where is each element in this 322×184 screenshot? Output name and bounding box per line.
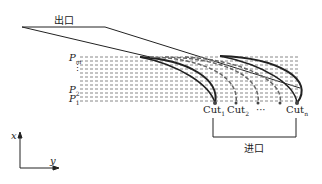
- cutn-curves: [185, 56, 302, 103]
- vdots-label: ⋮: [73, 64, 82, 72]
- inlet-bracket: [213, 118, 296, 137]
- axis-x-label: x: [11, 130, 17, 141]
- axis-y-label: y: [50, 155, 56, 166]
- ellipsis-label: ···: [256, 104, 266, 115]
- p-1-label: P1: [69, 93, 80, 106]
- toolpath-diagram: 出口 Pm ⋮ P2 P1 Cut1 Cut2 ··· Cutn 进口 x y: [0, 0, 322, 184]
- cut2-label: Cut2: [227, 104, 249, 117]
- outlet-label: 出口: [54, 12, 74, 27]
- inlet-label: 进口: [244, 140, 264, 155]
- cutn-label: Cutn: [286, 104, 308, 117]
- cut1-curves: [140, 57, 258, 103]
- diagram-graphics: [0, 0, 322, 184]
- cut1-label: Cut1: [203, 104, 225, 117]
